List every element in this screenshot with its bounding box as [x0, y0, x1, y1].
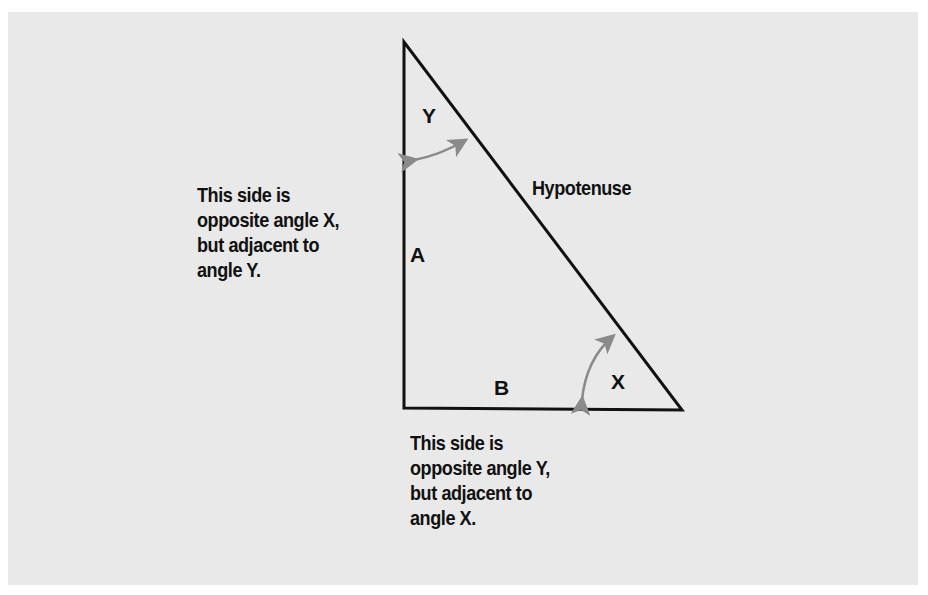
- angle-y-label: Y: [422, 104, 436, 128]
- side-a-annotation: This side is opposite angle X, but adjac…: [197, 182, 339, 282]
- angle-x-arc-arrow: [582, 337, 612, 400]
- side-b-label: B: [494, 376, 509, 400]
- angle-y-arc-arrow: [414, 141, 464, 160]
- angle-x-label: X: [611, 370, 625, 394]
- hypotenuse-label: Hypotenuse: [532, 176, 631, 200]
- side-b-annotation: This side is opposite angle Y, but adjac…: [410, 430, 550, 530]
- side-a-label: A: [410, 243, 425, 267]
- triangle-shape: [404, 42, 682, 410]
